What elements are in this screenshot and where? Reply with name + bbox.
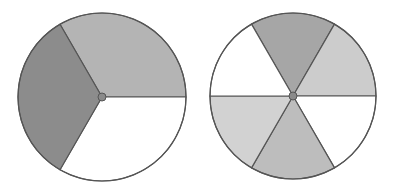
spinner-hub-icon — [98, 93, 106, 101]
spinners-svg — [0, 0, 395, 192]
spinner-three-sectors — [18, 13, 186, 181]
spinner-six-sectors — [210, 13, 376, 179]
spinner-figure — [0, 0, 395, 192]
spinner-hub-icon — [289, 92, 297, 100]
